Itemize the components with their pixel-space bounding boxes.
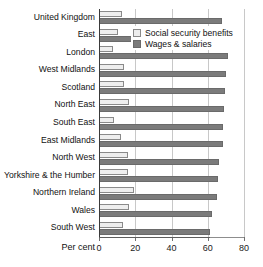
x-axis-tick-label: 60 bbox=[193, 243, 223, 253]
x-axis-title: Per cent bbox=[0, 242, 95, 252]
bar-social-security-benefits bbox=[99, 222, 123, 228]
bar-wages-salaries bbox=[99, 141, 223, 147]
legend-item-wages-salaries: Wages & salaries bbox=[133, 38, 233, 49]
y-axis-category-label: East Midlands bbox=[0, 136, 95, 145]
bar-social-security-benefits bbox=[99, 64, 124, 70]
chart-legend: Social security benefits Wages & salarie… bbox=[131, 26, 235, 50]
bar-social-security-benefits bbox=[99, 99, 129, 105]
y-axis-category-label: North East bbox=[0, 100, 95, 109]
bar-wages-salaries bbox=[99, 159, 219, 165]
bar-social-security-benefits bbox=[99, 169, 128, 175]
bar-wages-salaries bbox=[99, 106, 224, 112]
legend-label-wages-salaries: Wages & salaries bbox=[145, 39, 212, 49]
bar-wages-salaries bbox=[99, 124, 223, 130]
bar-wages-salaries bbox=[99, 211, 212, 217]
x-axis-tick-label: 20 bbox=[120, 243, 150, 253]
y-axis-category-label: London bbox=[0, 48, 95, 57]
legend-label-social-security-benefits: Social security benefits bbox=[145, 28, 233, 38]
x-axis-tick bbox=[244, 237, 245, 241]
legend-item-social-security-benefits: Social security benefits bbox=[133, 27, 233, 38]
bar-wages-salaries bbox=[99, 71, 226, 77]
bar-chart: 020406080 United KingdomEastLondonWest M… bbox=[0, 0, 263, 267]
x-axis-tick-label: 40 bbox=[157, 243, 187, 253]
bar-wages-salaries bbox=[99, 53, 228, 59]
bar-wages-salaries bbox=[99, 194, 217, 200]
y-axis-category-label: Wales bbox=[0, 206, 95, 215]
y-axis-category-label: Yorkshire & the Humber bbox=[0, 171, 95, 180]
gridline bbox=[244, 9, 245, 237]
y-axis-category-label: Northern Ireland bbox=[0, 188, 95, 197]
y-axis-category-label: West Midlands bbox=[0, 65, 95, 74]
y-axis-category-label: Scotland bbox=[0, 83, 95, 92]
y-axis-category-label: United Kingdom bbox=[0, 13, 95, 22]
y-axis-category-label: South West bbox=[0, 223, 95, 232]
y-axis-line bbox=[99, 9, 100, 238]
bar-social-security-benefits bbox=[99, 46, 113, 52]
x-axis-line-segment bbox=[99, 237, 210, 238]
bar-social-security-benefits bbox=[99, 134, 121, 140]
bar-wages-salaries bbox=[99, 229, 210, 235]
bar-social-security-benefits bbox=[99, 29, 118, 35]
bar-social-security-benefits bbox=[99, 152, 128, 158]
bar-social-security-benefits bbox=[99, 81, 124, 87]
bar-wages-salaries bbox=[99, 88, 225, 94]
bar-social-security-benefits bbox=[99, 11, 122, 17]
y-axis-category-label: South East bbox=[0, 118, 95, 127]
x-axis-tick-label: 80 bbox=[229, 243, 259, 253]
legend-swatch-icon-social-security-benefits bbox=[133, 29, 141, 37]
y-axis-category-label: East bbox=[0, 30, 95, 39]
bar-social-security-benefits bbox=[99, 204, 129, 210]
legend-swatch-icon-wages-salaries bbox=[133, 40, 141, 48]
bar-social-security-benefits bbox=[99, 187, 134, 193]
bar-wages-salaries bbox=[99, 18, 222, 24]
bar-wages-salaries bbox=[99, 176, 218, 182]
y-axis-category-label: North West bbox=[0, 153, 95, 162]
bar-social-security-benefits bbox=[99, 117, 114, 123]
